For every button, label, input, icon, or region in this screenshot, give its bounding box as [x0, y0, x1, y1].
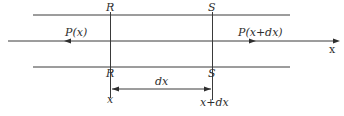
section-r-bottom-label: R [105, 67, 114, 80]
force-right-arrow-icon [249, 39, 256, 44]
section-s-bottom-label: S [208, 67, 216, 80]
force-left-arrow-icon [64, 39, 71, 44]
force-left-label: P(x) [64, 26, 87, 39]
section-r-top-label: R [105, 1, 114, 14]
bar-element-diagram: R S R S P(x) P(x+dx) dx x x+dx x [0, 0, 344, 116]
dx-label: dx [155, 75, 169, 88]
dx-left-arrow-icon [112, 87, 119, 92]
dx-right-arrow-icon [204, 87, 211, 92]
position-x-label: x [107, 93, 114, 106]
x-axis-label: x [329, 43, 336, 56]
force-right-label: P(x+dx) [237, 26, 283, 39]
section-s-top-label: S [208, 1, 216, 14]
position-x-plus-dx-label: x+dx [200, 96, 229, 109]
